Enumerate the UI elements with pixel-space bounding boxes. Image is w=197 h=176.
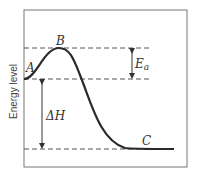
point-b-label: B — [55, 34, 65, 48]
point-a-label: A — [25, 61, 35, 75]
ylabel: Energy level — [8, 64, 19, 119]
energy-diagram: Energy level A B C Ea ΔH — [0, 0, 197, 176]
ea-label: Ea — [134, 57, 149, 72]
point-c-label: C — [142, 134, 151, 148]
energy-curve — [24, 48, 174, 149]
dh-label: ΔH — [45, 109, 66, 123]
plot-frame — [24, 10, 187, 167]
